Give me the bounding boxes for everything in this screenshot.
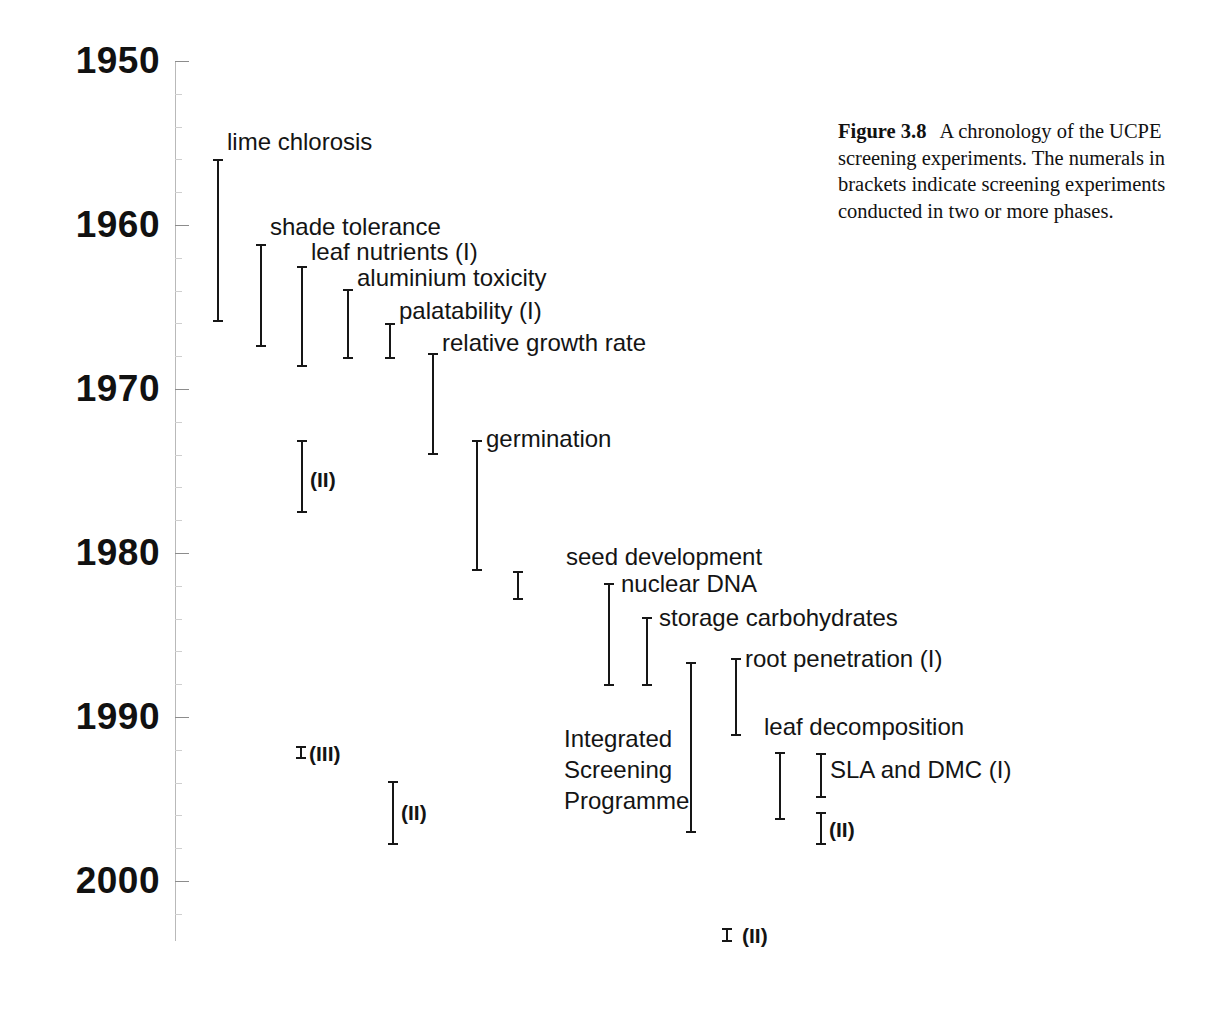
bracket-stem — [517, 571, 519, 600]
bracket-stem — [735, 658, 737, 736]
bracket-stem — [217, 159, 219, 322]
bracket-cap-bottom — [722, 940, 732, 942]
bracket-cap-bottom — [388, 843, 398, 845]
axis-tick-minor — [175, 619, 182, 620]
label-leaf-decomposition: leaf decomposition — [764, 714, 964, 739]
bracket-stem — [779, 752, 781, 820]
bracket-stem — [347, 289, 349, 359]
axis-tick-minor — [175, 651, 182, 652]
axis-tick-minor — [175, 291, 182, 292]
bracket-cap-bottom — [385, 357, 395, 359]
phase-tag-sla-dmc-ii: (II) — [829, 818, 855, 842]
label-lime-chlorosis: lime chlorosis — [227, 129, 372, 154]
bracket-cap-bottom — [296, 757, 306, 759]
axis-tick-minor — [175, 94, 182, 95]
label-aluminium-toxicity: aluminium toxicity — [357, 265, 546, 290]
axis-tick-minor — [175, 520, 182, 521]
bracket-stem — [820, 753, 822, 798]
label-storage-carbohydrates: storage carbohydrates — [659, 605, 898, 630]
bracket-stem — [476, 440, 478, 571]
axis-tick-minor — [175, 323, 182, 324]
bracket-cap-bottom — [816, 843, 826, 845]
label-shade-tolerance: shade tolerance — [270, 214, 441, 239]
axis-tick-minor — [175, 455, 182, 456]
label-nuclear-dna: nuclear DNA — [621, 571, 757, 596]
bracket-cap-bottom — [213, 320, 223, 322]
phase-tag-leaf-nutrients-ii: (II) — [310, 468, 336, 492]
label-palatability: palatability (I) — [399, 298, 542, 323]
bracket-cap-bottom — [513, 598, 523, 600]
bracket-stem — [432, 353, 434, 455]
axis-tick-minor — [175, 684, 182, 685]
bracket-cap-bottom — [428, 453, 438, 455]
axis-tick-minor — [175, 750, 182, 751]
axis-tick-major — [175, 553, 189, 554]
axis-year-label: 2000 — [15, 862, 160, 899]
axis-tick-minor — [175, 258, 182, 259]
axis-year-label: 1970 — [15, 370, 160, 407]
phase-tag-root-penetration-ii: (II) — [742, 924, 768, 948]
label-leaf-nutrients: leaf nutrients (I) — [311, 239, 478, 264]
bracket-stem — [646, 617, 648, 686]
axis-tick-major — [175, 389, 189, 390]
bracket-cap-bottom — [343, 357, 353, 359]
bracket-cap-bottom — [731, 734, 741, 736]
bracket-stem — [392, 781, 394, 845]
axis-tick-minor — [175, 848, 182, 849]
axis-tick-minor — [175, 914, 182, 915]
axis-tick-minor — [175, 422, 182, 423]
axis-tick-minor — [175, 586, 182, 587]
bracket-cap-bottom — [256, 345, 266, 347]
axis-tick-minor — [175, 356, 182, 357]
axis-tick-minor — [175, 192, 182, 193]
figure-number: Figure 3.8 — [838, 120, 926, 142]
bracket-stem — [389, 323, 391, 359]
axis-year-label: 1990 — [15, 698, 160, 735]
bracket-stem — [820, 812, 822, 845]
bracket-cap-bottom — [297, 511, 307, 513]
bracket-cap-bottom — [297, 365, 307, 367]
axis-tick-minor — [175, 127, 182, 128]
axis-year-label: 1980 — [15, 534, 160, 571]
axis-tick-major — [175, 717, 189, 718]
bracket-stem — [608, 583, 610, 686]
bracket-cap-bottom — [642, 684, 652, 686]
bracket-cap-bottom — [686, 831, 696, 833]
bracket-cap-bottom — [472, 569, 482, 571]
label-germination: germination — [486, 426, 611, 451]
axis-tick-minor — [175, 783, 182, 784]
axis-year-label: 1950 — [15, 42, 160, 79]
axis-tick-major — [175, 61, 189, 62]
bracket-stem — [301, 440, 303, 513]
axis-tick-major — [175, 225, 189, 226]
bracket-stem — [301, 266, 303, 367]
label-relative-growth-rate: relative growth rate — [442, 330, 646, 355]
bracket-stem — [260, 244, 262, 347]
bracket-cap-bottom — [775, 818, 785, 820]
bracket-cap-bottom — [816, 796, 826, 798]
axis-tick-minor — [175, 159, 182, 160]
label-seed-development: seed development — [566, 544, 762, 569]
phase-tag-leaf-nutrients-iii: (III) — [309, 742, 341, 766]
bracket-cap-bottom — [604, 684, 614, 686]
label-integrated-screening-programme: Integrated Screening Programme — [564, 723, 699, 817]
phase-tag-palatability-ii: (II) — [401, 801, 427, 825]
label-sla-and-dmc: SLA and DMC (I) — [830, 757, 1011, 782]
axis-year-label: 1960 — [15, 206, 160, 243]
axis-tick-minor — [175, 487, 182, 488]
axis-tick-major — [175, 881, 189, 882]
figure-canvas: 195019601970198019902000 lime chlorosis … — [0, 0, 1228, 1018]
figure-caption: Figure 3.8A chronology of the UCPE scree… — [838, 118, 1228, 225]
axis-tick-minor — [175, 815, 182, 816]
label-root-penetration: root penetration (I) — [745, 646, 942, 671]
